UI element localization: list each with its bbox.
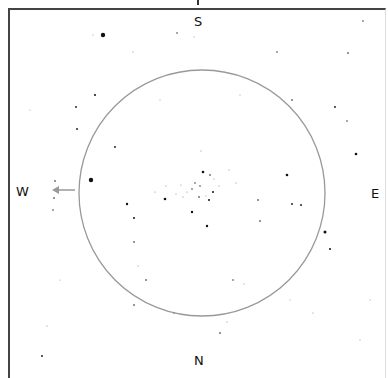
stars-layer [30,20,371,357]
star [312,312,313,313]
star [206,225,208,227]
star [180,184,181,185]
star [89,178,93,182]
star [362,20,363,21]
star [145,279,147,281]
star [219,332,221,334]
star [133,241,135,243]
star [334,106,336,108]
star [346,120,347,121]
star [202,171,205,174]
star [176,32,177,33]
west-arrow-icon [52,186,75,194]
star [300,204,302,206]
star [46,325,47,326]
star [259,220,261,222]
star [126,203,128,205]
star [232,279,233,280]
star [198,196,200,198]
star [226,321,227,322]
star [76,128,78,130]
star [218,185,219,186]
star [94,94,96,96]
star [355,153,358,156]
star [276,51,277,52]
star [291,203,293,205]
direction-label-south: S [194,14,202,29]
star [54,180,56,182]
star [160,100,161,101]
star [291,99,293,101]
star [60,280,61,281]
star [286,174,289,177]
star [359,339,360,340]
star [200,150,201,151]
star [243,283,244,284]
star [137,265,138,266]
star [191,188,192,189]
star [191,211,193,213]
star [194,182,195,183]
star [30,110,31,111]
star [329,248,331,250]
star [257,199,259,201]
direction-label-north: N [194,353,204,368]
star [208,199,210,201]
star [53,197,55,199]
star [240,95,241,96]
direction-label-west: W [16,184,29,199]
direction-label-east: E [371,186,379,201]
star [194,37,195,38]
star [228,169,229,170]
star [212,191,214,193]
star [199,185,200,186]
star [75,106,77,108]
star [182,196,183,197]
star [175,193,176,194]
star [133,304,135,306]
star [347,52,349,54]
star [213,178,214,179]
star [186,191,187,192]
star [369,299,370,300]
star [41,355,43,357]
star [92,34,93,35]
star [133,217,135,219]
field-of-view-circle [79,70,325,316]
star [165,185,166,186]
star [290,300,291,301]
star [101,33,105,37]
star [114,146,116,148]
star [205,195,206,196]
star [164,198,167,201]
star [52,209,53,210]
star [235,182,236,183]
star [209,174,211,176]
star [154,191,155,192]
star [324,231,327,234]
star [132,51,133,52]
